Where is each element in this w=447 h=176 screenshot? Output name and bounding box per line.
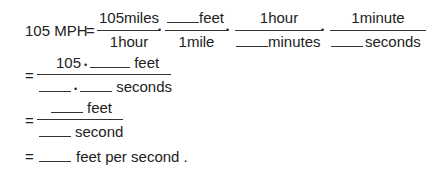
fraction-4-bar [330, 30, 426, 31]
fraction-3-numerator: 1hour [235, 9, 323, 26]
multiply-dot: • [74, 84, 77, 94]
fraction-4-denominator: seconds [331, 33, 421, 50]
unit-second: second [75, 123, 123, 140]
multiply-dot: • [226, 25, 229, 35]
number-105: 105 [56, 54, 81, 71]
fraction-2-denominator: 1mile [165, 33, 228, 50]
fraction-3-bar [235, 30, 322, 31]
blank-feet-per-mile[interactable] [167, 10, 199, 23]
fraction-2-bar [165, 30, 228, 31]
blank-minutes-per-hour[interactable] [236, 34, 268, 47]
multiply-dot: • [321, 25, 324, 35]
line3-fraction-bar [37, 119, 123, 120]
unit-minutes: minutes [268, 33, 321, 50]
blank-seconds[interactable] [80, 79, 112, 92]
blank-seconds-total[interactable] [39, 124, 71, 137]
line4-answer: feet per second . [39, 148, 188, 165]
blank-seconds-per-minute[interactable] [331, 34, 363, 47]
line3-denominator: second [39, 123, 123, 140]
line2-denominator: •seconds [39, 78, 172, 95]
unit-feet: feet [134, 54, 159, 71]
unit-feet: feet [87, 99, 112, 116]
blank-minutes[interactable] [39, 79, 71, 92]
line3-numerator: feet [51, 99, 112, 116]
fraction-4-numerator: 1minute [330, 9, 426, 26]
lhs-speed: 105 MPH [25, 22, 88, 39]
unit-seconds: seconds [365, 33, 421, 50]
multiply-dot: • [84, 60, 87, 70]
answer-units: feet per second . [76, 148, 188, 165]
blank-feet-total[interactable] [51, 100, 83, 113]
line2-fraction-bar [37, 74, 171, 75]
unit-seconds: seconds [116, 78, 172, 95]
equals-sign: = [86, 22, 95, 39]
equals-sign: = [25, 148, 34, 165]
fraction-1-denominator: 1hour [97, 33, 161, 50]
line2-numerator: 105•feet [56, 54, 159, 71]
fraction-1-bar [97, 30, 160, 31]
fraction-1-numerator: 105miles [97, 9, 161, 26]
equals-sign: = [25, 112, 34, 129]
fraction-3-denominator: minutes [236, 33, 321, 50]
equals-sign: = [25, 67, 34, 84]
blank-feet[interactable] [90, 55, 130, 68]
blank-answer[interactable] [39, 149, 71, 162]
unit-feet: feet [199, 9, 224, 26]
fraction-2-numerator: feet [167, 9, 224, 26]
multiply-dot: • [158, 25, 161, 35]
